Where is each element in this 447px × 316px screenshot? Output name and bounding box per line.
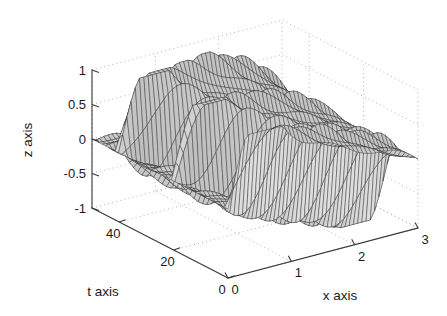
- z-tick-label: -1: [74, 201, 86, 216]
- z-tick-label: 0: [79, 132, 86, 147]
- x-tick-label: 3: [421, 232, 428, 247]
- t-axis-title: t axis: [87, 284, 119, 299]
- t-tick-label: 20: [160, 254, 174, 269]
- x-tick-label: 2: [358, 249, 365, 264]
- surface-plot-canvas: 10.50-0.5-1402000123z axist axisx axis: [0, 0, 447, 316]
- z-tick-label: 0.5: [68, 97, 86, 112]
- x-axis-title: x axis: [323, 288, 358, 303]
- z-tick-label: -0.5: [64, 166, 86, 181]
- z-axis-title: z axis: [20, 122, 35, 157]
- x-tick-label: 1: [295, 265, 302, 280]
- matlab-3d-surface-figure: 10.50-0.5-1402000123z axist axisx axis: [0, 0, 447, 316]
- z-tick-label: 1: [79, 63, 86, 78]
- x-tick-label: 0: [231, 282, 238, 297]
- t-tick-label: 0: [218, 282, 225, 297]
- t-tick-label: 40: [106, 226, 120, 241]
- mesh-surface-layer: [92, 52, 418, 228]
